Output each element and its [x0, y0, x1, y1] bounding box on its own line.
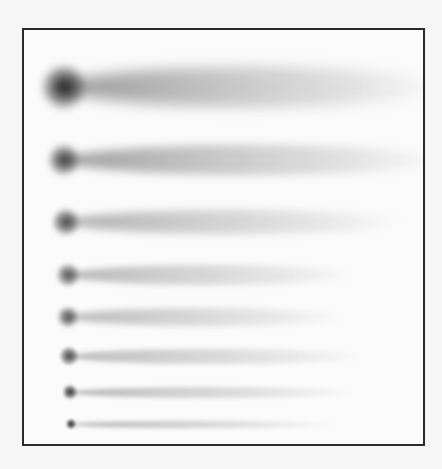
- streak-tail: [68, 265, 358, 285]
- streak-head: [58, 307, 78, 327]
- image-frame: [22, 28, 425, 446]
- streak-head: [63, 385, 77, 399]
- streak-tail: [64, 145, 425, 175]
- streak-head: [60, 347, 78, 365]
- streak-tail: [69, 349, 369, 364]
- streak-tail: [64, 67, 425, 107]
- streak-tail: [71, 421, 341, 428]
- streak-head: [43, 66, 85, 108]
- streak-head: [57, 264, 79, 286]
- streak-tail: [70, 387, 360, 398]
- streak-tail: [66, 210, 406, 234]
- streak-head: [49, 145, 79, 175]
- streak-head: [53, 209, 79, 235]
- streak-tail: [68, 308, 348, 326]
- streak-head: [66, 419, 76, 429]
